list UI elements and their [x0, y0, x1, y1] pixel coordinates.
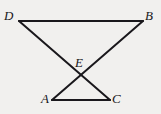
geometry-figure: D B E A C	[0, 0, 161, 114]
vertex-label-c: C	[112, 92, 121, 105]
vertex-label-e: E	[75, 56, 83, 69]
vertex-label-a: A	[41, 92, 49, 105]
vertex-label-d: D	[4, 9, 13, 22]
vertex-label-b: B	[145, 9, 153, 22]
